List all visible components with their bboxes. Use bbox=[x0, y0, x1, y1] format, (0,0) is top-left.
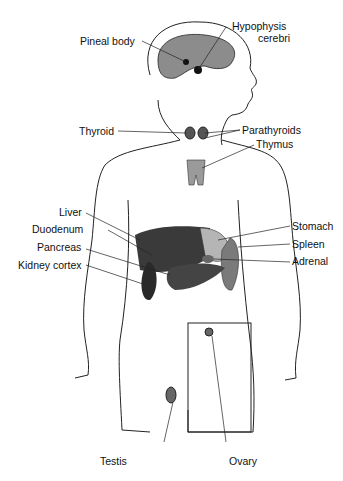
thyroid-leader bbox=[118, 131, 186, 133]
liver-leader bbox=[86, 213, 140, 240]
stomach-leader bbox=[218, 226, 290, 240]
label-thymus: Thymus bbox=[256, 138, 293, 150]
label-ovary: Ovary bbox=[229, 455, 257, 467]
testis-leader bbox=[164, 402, 173, 442]
pancreas bbox=[167, 264, 225, 291]
testis-gland bbox=[166, 387, 176, 403]
label-thyroid: Thyroid bbox=[79, 125, 114, 137]
thymus-leader bbox=[202, 145, 254, 168]
label-adrenal: Adrenal bbox=[292, 255, 328, 267]
label-testis: Testis bbox=[100, 455, 127, 467]
thyroid-left-lobe bbox=[185, 127, 195, 139]
label-stomach: Stomach bbox=[292, 220, 333, 232]
label-parathyroids: Parathyroids bbox=[242, 124, 301, 136]
inset-box bbox=[188, 323, 251, 432]
ovary-leader bbox=[212, 336, 226, 442]
ovary-gland bbox=[205, 328, 213, 336]
adrenal bbox=[202, 255, 214, 263]
label-pancreas: Pancreas bbox=[37, 241, 81, 253]
neck-back bbox=[158, 100, 180, 140]
label-pineal-body: Pineal body bbox=[80, 35, 135, 47]
label-hypophysis: Hypophysis bbox=[232, 20, 286, 32]
label-liver: Liver bbox=[59, 206, 82, 218]
label-kidney-cortex: Kidney cortex bbox=[18, 259, 82, 271]
label-cerebri: cerebri bbox=[258, 32, 290, 44]
thymus bbox=[187, 160, 205, 185]
kidney-leader bbox=[86, 265, 146, 285]
label-spleen: Spleen bbox=[292, 238, 325, 250]
label-duodenum: Duodenum bbox=[32, 223, 83, 235]
spleen-leader bbox=[238, 244, 290, 247]
